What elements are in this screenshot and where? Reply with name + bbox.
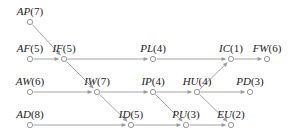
node-duration-fw: (6) — [269, 42, 282, 54]
node-pl[interactable] — [150, 56, 155, 61]
arrowhead-ad-to-id — [122, 123, 127, 127]
node-duration-ap: (7) — [30, 5, 43, 17]
node-code-aw: AW — [16, 75, 31, 87]
node-label-ic: IC(1) — [219, 42, 243, 54]
node-label-pl: PL(4) — [140, 42, 166, 54]
arrowhead-if-to-pl — [144, 57, 149, 61]
node-duration-if: (5) — [63, 42, 76, 54]
node-code-af: AF — [17, 42, 30, 54]
arrowhead-aw-to-iw — [88, 90, 93, 94]
node-pd[interactable] — [247, 89, 252, 94]
node-duration-ip: (4) — [152, 75, 165, 87]
network-diagram: AP(7)AF(5)IF(5)PL(4)IC(1)FW(6)AW(6)IW(7)… — [0, 0, 297, 140]
node-label-af: AF(5) — [17, 42, 43, 54]
node-duration-ic: (1) — [230, 42, 243, 54]
node-id[interactable] — [128, 122, 133, 127]
node-label-ap: AP(7) — [17, 5, 43, 17]
node-duration-pl: (4) — [153, 42, 166, 54]
node-code-pu: PU — [172, 108, 187, 120]
node-iw[interactable] — [94, 89, 99, 94]
node-duration-pd: (3) — [251, 75, 264, 87]
arrowhead-hu-to-pd — [241, 90, 246, 94]
arrowhead-id-to-pu — [177, 123, 182, 127]
node-hu[interactable] — [194, 89, 199, 94]
node-code-fw: FW — [253, 42, 269, 54]
node-if[interactable] — [61, 56, 66, 61]
node-label-ip: IP(4) — [141, 75, 164, 87]
node-code-if: IF — [52, 42, 62, 54]
node-pu[interactable] — [183, 122, 188, 127]
arrowhead-pu-to-eu — [222, 123, 227, 127]
arrowhead-af-to-if — [55, 57, 60, 61]
node-label-id: ID(5) — [119, 108, 143, 120]
node-duration-pu: (3) — [187, 108, 200, 120]
arrowhead-iw-to-ip — [144, 90, 149, 94]
node-code-id: ID — [119, 108, 131, 120]
node-eu[interactable] — [228, 122, 233, 127]
arrowhead-pl-to-ic — [222, 57, 227, 61]
node-duration-hu: (4) — [199, 75, 212, 87]
node-label-hu: HU(4) — [183, 75, 212, 87]
node-label-pu: PU(3) — [172, 108, 200, 120]
node-code-ad: AD — [16, 108, 31, 120]
node-code-pl: PL — [140, 42, 153, 54]
node-ic[interactable] — [228, 56, 233, 61]
node-ip[interactable] — [150, 89, 155, 94]
node-ap[interactable] — [27, 19, 32, 24]
node-duration-af: (5) — [30, 42, 43, 54]
node-code-pd: PD — [236, 75, 251, 87]
node-duration-aw: (6) — [31, 75, 44, 87]
node-duration-eu: (2) — [232, 108, 245, 120]
node-duration-iw: (7) — [97, 75, 110, 87]
node-aw[interactable] — [27, 89, 32, 94]
arrowhead-ic-to-fw — [258, 57, 263, 61]
arrowhead-ip-to-hu — [188, 90, 193, 94]
node-duration-ad: (8) — [31, 108, 44, 120]
node-af[interactable] — [27, 56, 32, 61]
node-label-fw: FW(6) — [253, 42, 282, 54]
node-label-eu: EU(2) — [217, 108, 245, 120]
node-code-ip: IP — [141, 75, 151, 87]
node-fw[interactable] — [264, 56, 269, 61]
node-code-iw: IW — [84, 75, 97, 87]
node-label-iw: IW(7) — [84, 75, 110, 87]
node-code-ap: AP — [17, 5, 30, 17]
node-label-if: IF(5) — [52, 42, 75, 54]
node-label-aw: AW(6) — [16, 75, 44, 87]
node-ad[interactable] — [27, 122, 32, 127]
edge-layer — [0, 0, 297, 140]
node-duration-id: (5) — [130, 108, 143, 120]
node-label-ad: AD(8) — [16, 108, 44, 120]
node-label-pd: PD(3) — [236, 75, 264, 87]
node-code-ic: IC — [219, 42, 230, 54]
node-code-hu: HU — [183, 75, 199, 87]
node-code-eu: EU — [217, 108, 232, 120]
